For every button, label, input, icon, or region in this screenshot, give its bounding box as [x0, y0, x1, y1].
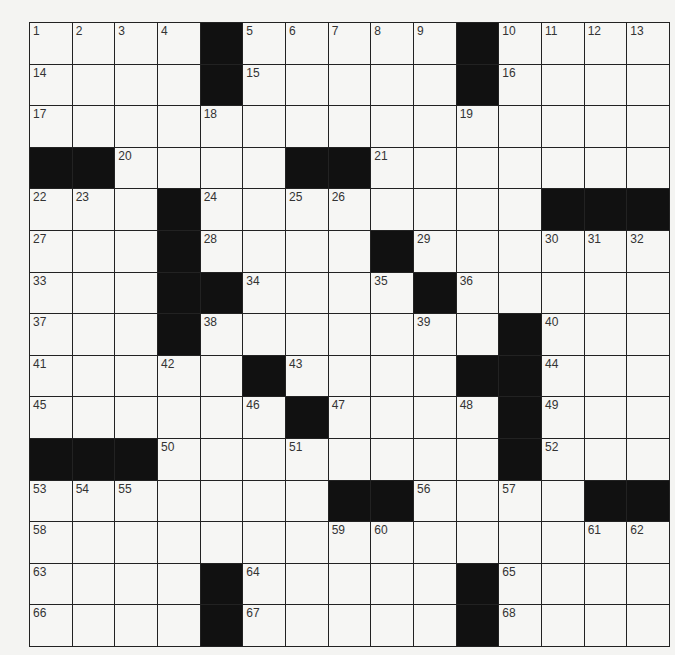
grid-cell[interactable]: 46 [243, 397, 285, 438]
grid-cell[interactable] [329, 356, 371, 397]
grid-cell[interactable] [542, 605, 584, 646]
grid-cell[interactable]: 3 [115, 23, 157, 64]
grid-cell[interactable] [73, 564, 115, 605]
grid-cell[interactable]: 32 [627, 231, 669, 272]
grid-cell[interactable] [627, 65, 669, 106]
grid-cell[interactable] [243, 314, 285, 355]
grid-cell[interactable] [329, 231, 371, 272]
grid-cell[interactable] [371, 564, 413, 605]
grid-cell[interactable]: 11 [542, 23, 584, 64]
grid-cell[interactable]: 4 [158, 23, 200, 64]
grid-cell[interactable] [115, 65, 157, 106]
grid-cell[interactable]: 27 [30, 231, 72, 272]
grid-cell[interactable] [115, 397, 157, 438]
grid-cell[interactable]: 22 [30, 189, 72, 230]
grid-cell[interactable] [585, 397, 627, 438]
grid-cell[interactable] [158, 605, 200, 646]
grid-cell[interactable]: 44 [542, 356, 584, 397]
grid-cell[interactable] [329, 439, 371, 480]
grid-cell[interactable] [243, 481, 285, 522]
grid-cell[interactable]: 52 [542, 439, 584, 480]
grid-cell[interactable]: 21 [371, 148, 413, 189]
grid-cell[interactable] [457, 189, 499, 230]
grid-cell[interactable] [585, 605, 627, 646]
grid-cell[interactable] [243, 148, 285, 189]
grid-cell[interactable] [115, 564, 157, 605]
grid-cell[interactable] [499, 273, 541, 314]
grid-cell[interactable] [286, 605, 328, 646]
grid-cell[interactable]: 37 [30, 314, 72, 355]
grid-cell[interactable] [627, 148, 669, 189]
grid-cell[interactable] [158, 106, 200, 147]
grid-cell[interactable]: 65 [499, 564, 541, 605]
grid-cell[interactable] [158, 65, 200, 106]
grid-cell[interactable] [371, 189, 413, 230]
grid-cell[interactable] [115, 522, 157, 563]
grid-cell[interactable] [414, 148, 456, 189]
grid-cell[interactable]: 50 [158, 439, 200, 480]
grid-cell[interactable]: 68 [499, 605, 541, 646]
grid-cell[interactable] [329, 564, 371, 605]
grid-cell[interactable]: 48 [457, 397, 499, 438]
grid-cell[interactable]: 36 [457, 273, 499, 314]
grid-cell[interactable]: 29 [414, 231, 456, 272]
grid-cell[interactable] [585, 356, 627, 397]
grid-cell[interactable]: 49 [542, 397, 584, 438]
grid-cell[interactable]: 23 [73, 189, 115, 230]
grid-cell[interactable] [457, 148, 499, 189]
grid-cell[interactable] [371, 356, 413, 397]
grid-cell[interactable]: 35 [371, 273, 413, 314]
grid-cell[interactable] [243, 522, 285, 563]
grid-cell[interactable]: 18 [201, 106, 243, 147]
grid-cell[interactable] [286, 273, 328, 314]
grid-cell[interactable] [585, 314, 627, 355]
grid-cell[interactable]: 24 [201, 189, 243, 230]
grid-cell[interactable] [286, 231, 328, 272]
grid-cell[interactable] [627, 397, 669, 438]
grid-cell[interactable] [585, 439, 627, 480]
grid-cell[interactable] [73, 522, 115, 563]
grid-cell[interactable]: 55 [115, 481, 157, 522]
grid-cell[interactable] [542, 522, 584, 563]
grid-cell[interactable] [158, 564, 200, 605]
grid-cell[interactable] [115, 189, 157, 230]
grid-cell[interactable] [201, 439, 243, 480]
grid-cell[interactable]: 56 [414, 481, 456, 522]
grid-cell[interactable] [627, 273, 669, 314]
grid-cell[interactable] [627, 314, 669, 355]
grid-cell[interactable] [585, 65, 627, 106]
grid-cell[interactable] [286, 106, 328, 147]
grid-cell[interactable] [414, 189, 456, 230]
grid-cell[interactable] [286, 481, 328, 522]
grid-cell[interactable] [585, 273, 627, 314]
grid-cell[interactable]: 67 [243, 605, 285, 646]
grid-cell[interactable] [73, 65, 115, 106]
grid-cell[interactable]: 19 [457, 106, 499, 147]
grid-cell[interactable]: 51 [286, 439, 328, 480]
grid-cell[interactable] [73, 605, 115, 646]
grid-cell[interactable] [499, 106, 541, 147]
grid-cell[interactable] [201, 522, 243, 563]
grid-cell[interactable] [73, 231, 115, 272]
grid-cell[interactable] [371, 439, 413, 480]
grid-cell[interactable] [158, 481, 200, 522]
grid-cell[interactable]: 12 [585, 23, 627, 64]
grid-cell[interactable] [627, 605, 669, 646]
grid-cell[interactable] [115, 314, 157, 355]
grid-cell[interactable]: 64 [243, 564, 285, 605]
grid-cell[interactable]: 20 [115, 148, 157, 189]
grid-cell[interactable] [542, 148, 584, 189]
grid-cell[interactable] [585, 564, 627, 605]
grid-cell[interactable] [115, 106, 157, 147]
grid-cell[interactable] [542, 106, 584, 147]
grid-cell[interactable] [457, 231, 499, 272]
grid-cell[interactable] [243, 189, 285, 230]
grid-cell[interactable] [457, 314, 499, 355]
grid-cell[interactable] [414, 356, 456, 397]
grid-cell[interactable] [542, 65, 584, 106]
grid-cell[interactable] [243, 106, 285, 147]
grid-cell[interactable]: 59 [329, 522, 371, 563]
grid-cell[interactable]: 66 [30, 605, 72, 646]
grid-cell[interactable] [286, 522, 328, 563]
grid-cell[interactable] [243, 439, 285, 480]
